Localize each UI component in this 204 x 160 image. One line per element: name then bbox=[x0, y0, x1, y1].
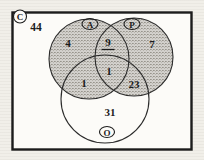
venn-diagram: C 44 A P O 4 9 7 1 1 23 31 bbox=[0, 0, 204, 160]
set-label-o-group: O bbox=[100, 127, 115, 138]
scanned-page: C 44 A P O 4 9 7 1 1 23 31 bbox=[0, 0, 204, 160]
universe-label: C bbox=[17, 12, 24, 22]
region-count-a-and-p: 9 bbox=[105, 36, 111, 48]
set-label-o: O bbox=[103, 128, 110, 138]
outside-count: 44 bbox=[30, 21, 42, 33]
region-count-a-only: 4 bbox=[65, 37, 71, 49]
region-count-a-and-o: 1 bbox=[81, 77, 87, 89]
set-label-a: A bbox=[87, 20, 94, 30]
region-count-p-and-o: 23 bbox=[129, 78, 141, 90]
region-count-o-only: 31 bbox=[105, 106, 116, 118]
region-count-center: 1 bbox=[106, 65, 112, 77]
region-count-p-only: 7 bbox=[149, 38, 155, 50]
universe-label-group: C bbox=[14, 10, 27, 23]
set-label-p: P bbox=[129, 20, 135, 30]
